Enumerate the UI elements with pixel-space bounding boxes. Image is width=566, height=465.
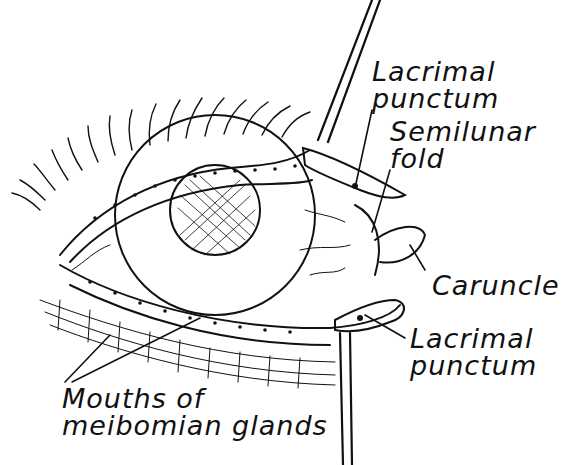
label-line: meibomian glands [62, 412, 328, 439]
label-lacrimal-punctum-upper: Lacrimal punctum [372, 58, 499, 112]
label-line: fold [390, 145, 536, 172]
label-line: Lacrimal [372, 58, 499, 85]
label-line: Semilunar [390, 118, 536, 145]
pupil [170, 165, 260, 255]
label-caruncle: Caruncle [432, 272, 560, 299]
label-line: Lacrimal [410, 325, 537, 352]
upper-eyelashes [12, 98, 310, 210]
lower-lid-margin [60, 265, 400, 328]
label-line: punctum [410, 352, 537, 379]
label-lacrimal-punctum-lower: Lacrimal punctum [410, 325, 537, 379]
label-semilunar-fold: Semilunar fold [390, 118, 536, 172]
sclera-veins [72, 210, 350, 275]
label-line: Caruncle [432, 272, 560, 299]
iris [115, 115, 315, 315]
upper-lid-margin [60, 150, 310, 255]
label-line: punctum [372, 85, 499, 112]
meibomian-gland-dots [88, 164, 363, 334]
label-line: Mouths of [62, 385, 328, 412]
label-mouths-of-meibomian-glands: Mouths of meibomian glands [62, 385, 328, 439]
